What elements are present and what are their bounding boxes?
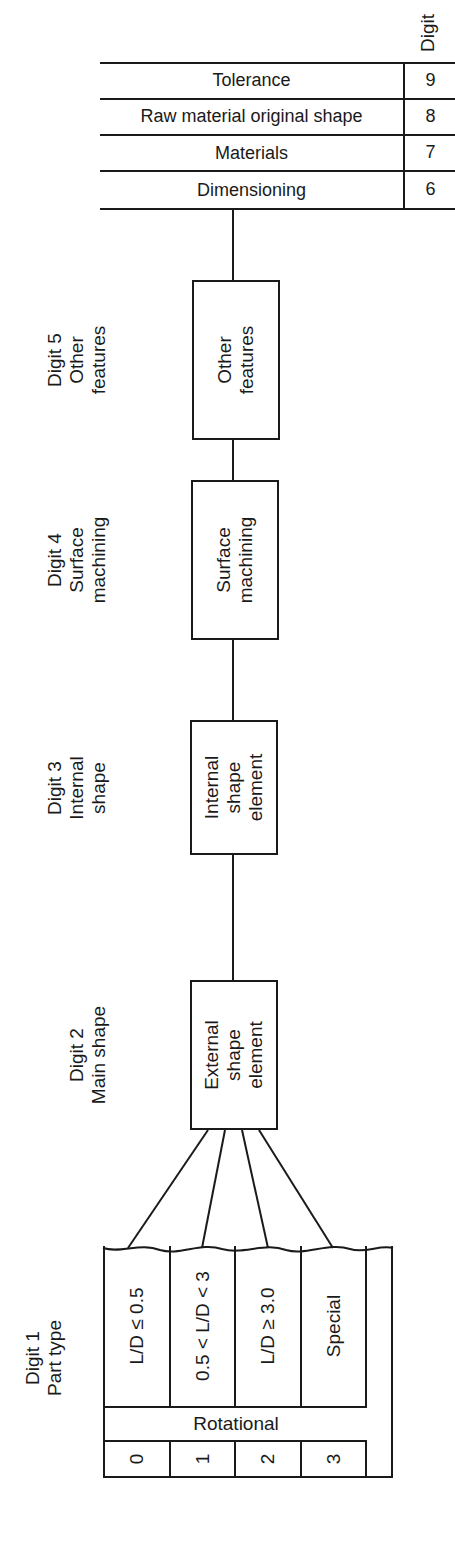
digit1-part-type-table: 0 L/D ≤ 0.5 1 0.5 < L/D < 3 2 L/D ≥ 3.0 …	[103, 1246, 393, 1478]
digit4-heading-line3: machining	[88, 485, 110, 635]
supp-code-9: 9	[425, 71, 435, 92]
digit5-box-line1: Other	[214, 326, 236, 395]
digit1-heading-line2: Part type	[44, 1278, 66, 1438]
digit4-heading-line1: Digit 4	[44, 485, 66, 635]
digit3-heading-line2: Internal	[66, 718, 88, 858]
digit1-desc-1: 0.5 < L/D < 3	[171, 1246, 234, 1406]
digit2-external-shape-box: External shape element	[190, 980, 278, 1130]
digit5-heading: Digit 5 Other features	[44, 290, 110, 430]
supp-row-9: Tolerance 9	[100, 64, 455, 100]
supp-code-8: 8	[425, 107, 435, 128]
digit2-heading-line1: Digit 2	[66, 975, 88, 1135]
digit2-box-line3: element	[245, 1020, 267, 1090]
digit1-code-2: 2	[236, 1442, 300, 1476]
digit2-box-line2: shape	[223, 1020, 245, 1090]
supplementary-digits-table: Dimensioning 6 Materials 7 Raw material …	[100, 62, 455, 210]
digit1-group-label: Rotational	[193, 1413, 279, 1435]
digit1-code-0: 0	[105, 1442, 169, 1476]
digit3-box-line2: shape	[223, 754, 245, 822]
supp-row-7: Materials 7	[100, 136, 455, 172]
digit3-box-line1: Internal	[201, 754, 223, 822]
digit4-heading-line2: Surface	[66, 485, 88, 635]
digit3-heading: Digit 3 Internal shape	[44, 718, 110, 858]
digit5-heading-line2: Other	[66, 290, 88, 430]
supp-desc-6: Dimensioning	[197, 180, 306, 201]
digit1-code-3: 3	[302, 1442, 365, 1476]
digit4-box-line1: Surface	[213, 517, 235, 604]
digit1-heading: Digit 1 Part type	[22, 1278, 66, 1438]
digit5-heading-line1: Digit 5	[44, 290, 66, 430]
digit2-heading: Digit 2 Main shape	[66, 975, 110, 1135]
supp-code-7: 7	[425, 143, 435, 164]
digit4-surface-machining-box: Surface machining	[191, 480, 279, 640]
digit1-heading-line1: Digit 1	[22, 1278, 44, 1438]
digit1-desc-0: L/D ≤ 0.5	[105, 1246, 169, 1406]
digit1-code-1: 1	[171, 1442, 234, 1476]
digit4-heading: Digit 4 Surface machining	[44, 485, 110, 635]
digit3-heading-line1: Digit 3	[44, 718, 66, 858]
digit5-box-line2: features	[236, 326, 258, 395]
digit4-box-line2: machining	[235, 517, 257, 604]
supp-desc-7: Materials	[215, 143, 288, 164]
digit3-heading-line3: shape	[88, 718, 110, 858]
digit2-heading-line2: Main shape	[88, 975, 110, 1135]
digit1-desc-2: L/D ≥ 3.0	[236, 1246, 300, 1406]
digit5-heading-line3: features	[88, 290, 110, 430]
digit3-box-line3: element	[245, 754, 267, 822]
digit1-group-rotational: Rotational	[105, 1408, 367, 1440]
digit3-internal-shape-box: Internal shape element	[190, 720, 278, 855]
supp-row-8: Raw material original shape 8	[100, 100, 455, 136]
digit5-other-features-box: Other features	[192, 280, 280, 440]
digit1-code-divider	[105, 1440, 367, 1442]
classification-diagram: Digit 1 Part type 0 L/D ≤ 0.5 1 0.5 < L/…	[0, 0, 455, 1548]
supp-row-6: Dimensioning 6	[100, 172, 455, 208]
digit1-desc-3: Special	[302, 1246, 365, 1406]
supplementary-digit-header: Digit	[402, 8, 454, 58]
digit2-box-line1: External	[201, 1020, 223, 1090]
supplementary-header-label: Digit	[417, 14, 439, 52]
supp-desc-9: Tolerance	[212, 70, 290, 91]
supp-desc-8: Raw material original shape	[140, 106, 362, 127]
supp-code-6: 6	[425, 180, 435, 201]
